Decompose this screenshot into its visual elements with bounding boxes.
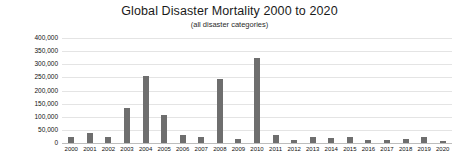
x-axis-tick-label: 2020 [432,146,454,152]
bar [365,140,371,143]
bar [254,58,260,143]
bar [124,108,130,143]
y-axis-tick-label: 400,000 [0,34,58,41]
bar [440,141,446,143]
gridline [62,51,452,52]
bar [161,115,167,143]
bar [87,133,93,143]
chart-title: Global Disaster Mortality 2000 to 2020 [0,4,459,18]
bar [198,137,204,143]
bar [217,79,223,143]
bar [235,139,241,143]
bar [68,137,74,143]
gridline [62,38,452,39]
bar [180,135,186,143]
bar [403,139,409,143]
bar [421,137,427,143]
bar [310,137,316,143]
bar [291,140,297,143]
plot-area [62,38,452,143]
bar-chart: Global Disaster Mortality 2000 to 2020 (… [0,0,459,165]
y-axis-tick-label: 50,000 [0,126,58,133]
bar [105,137,111,143]
y-axis-tick-label: 100,000 [0,113,58,120]
y-axis-tick-label: 0 [0,139,58,146]
bar [143,76,149,143]
y-axis-tick-label: 200,000 [0,87,58,94]
bar [328,138,334,143]
y-axis-tick-label: 150,000 [0,100,58,107]
chart-subtitle: (all disaster categories) [0,20,459,29]
y-axis-tick-label: 350,000 [0,47,58,54]
bar [347,137,353,143]
bar [273,135,279,143]
bar [384,140,390,143]
y-axis: 400,000350,000300,000250,000200,000150,0… [0,38,58,143]
gridline [62,143,452,144]
y-axis-tick-label: 250,000 [0,73,58,80]
y-axis-tick-label: 300,000 [0,60,58,67]
